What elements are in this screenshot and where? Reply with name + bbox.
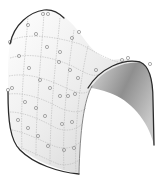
arch-surface-graphic	[0, 0, 163, 185]
surface-render	[0, 0, 163, 185]
